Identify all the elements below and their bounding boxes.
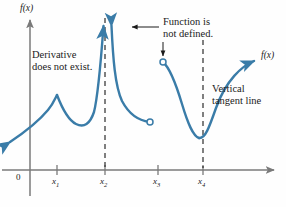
- derivative-existence-figure: f(x) f(x) 0 Derivative does not exist. F…: [0, 0, 286, 207]
- annotation-undefined-line2: not defined.: [163, 28, 213, 40]
- tick-label-x4-sub: 4: [202, 181, 205, 188]
- y-axis-label: f(x): [20, 3, 33, 13]
- tick-label-x2-sub: 2: [104, 181, 107, 188]
- tick-label-x2: x2: [100, 176, 107, 188]
- tick-label-x3: x3: [153, 176, 160, 188]
- leader-lines: [132, 27, 163, 56]
- annotation-derivative-line2: does not exist.: [32, 61, 92, 73]
- annotation-tangent-line2: tangent line: [212, 95, 261, 107]
- open-circle-right: [160, 59, 166, 65]
- tick-label-x1-sub: 1: [56, 181, 59, 188]
- curve-asymptote-right-branch: [112, 26, 150, 122]
- annotation-tangent-line1: Vertical: [212, 83, 261, 95]
- open-circle-left: [147, 119, 153, 125]
- tick-label-x4: x4: [198, 176, 205, 188]
- annotation-function-not-defined: Function is not defined.: [163, 16, 213, 39]
- annotation-undefined-line1: Function is: [163, 16, 213, 28]
- curve-jump-branch: [163, 62, 199, 138]
- annotation-derivative-line1: Derivative: [32, 49, 92, 61]
- axes-group: [2, 20, 274, 196]
- annotation-derivative-does-not-exist: Derivative does not exist.: [32, 49, 92, 72]
- tick-label-x1: x1: [52, 176, 59, 188]
- curve-left-tail: [10, 95, 57, 142]
- tick-label-x3-sub: 3: [157, 181, 160, 188]
- origin-label: 0: [16, 172, 21, 182]
- annotation-vertical-tangent-line: Vertical tangent line: [212, 83, 261, 106]
- curve-label: f(x): [261, 50, 274, 60]
- curve-corner-to-asymptote: [57, 26, 104, 126]
